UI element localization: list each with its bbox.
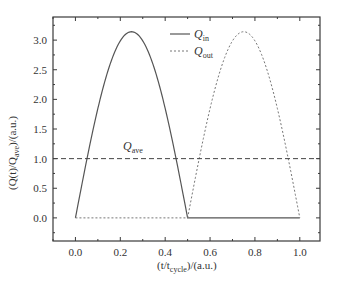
- axis-ticks: 0.00.20.40.60.81.00.00.51.01.52.02.53.0: [33, 17, 320, 258]
- y-tick-label: 1.0: [33, 153, 47, 165]
- series-q-out: [75, 32, 299, 218]
- chart-figure: 0.00.20.40.60.81.00.00.51.01.52.02.53.0 …: [0, 0, 337, 285]
- x-axis-label: (t/tcycle)/(a.u.): [157, 259, 217, 274]
- x-tick-label: 1.0: [293, 246, 307, 258]
- q-ave-annotation: Qave: [123, 139, 143, 155]
- legend-label-q-in: Qin: [194, 27, 209, 43]
- y-tick-label: 2.0: [33, 93, 47, 105]
- x-tick-label: 0.6: [203, 246, 217, 258]
- legend-label-q-out: Qout: [194, 44, 214, 60]
- x-tick-label: 0.4: [158, 246, 172, 258]
- y-tick-label: 3.0: [33, 34, 47, 46]
- y-tick-label: 0.5: [33, 182, 47, 194]
- series-q-in: [75, 32, 299, 218]
- y-tick-label: 2.5: [33, 64, 47, 76]
- y-axis-label: (Q(t)/Qave)/(a.u.): [6, 116, 21, 190]
- data-series: [53, 32, 320, 218]
- y-tick-label: 0.0: [33, 212, 47, 224]
- x-tick-label: 0.0: [69, 246, 83, 258]
- x-tick-label: 0.2: [113, 246, 127, 258]
- x-tick-label: 0.8: [248, 246, 262, 258]
- y-tick-label: 1.5: [33, 123, 47, 135]
- legend: Qin Qout: [170, 27, 214, 60]
